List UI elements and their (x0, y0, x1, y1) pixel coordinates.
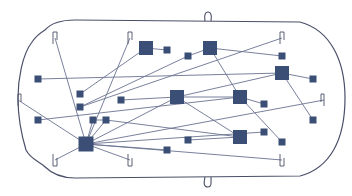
node-C (275, 66, 289, 80)
node-s17 (164, 147, 171, 154)
node-s3 (35, 76, 42, 83)
connection-line (106, 120, 240, 137)
connection-line (86, 144, 167, 150)
node-D (170, 90, 184, 104)
node-s14 (261, 129, 268, 136)
node-s16 (185, 137, 192, 144)
mirror-top (205, 12, 212, 21)
node-F (79, 137, 94, 152)
wire-line (86, 38, 130, 144)
node-s4 (310, 76, 317, 83)
connection-line (210, 48, 240, 97)
connection-line (121, 97, 177, 100)
node-G (233, 130, 247, 144)
node-s9 (103, 117, 110, 124)
vehicle-network-diagram (0, 0, 352, 196)
connection-line (282, 73, 313, 120)
node-s10 (35, 117, 42, 124)
mirror-bottom (204, 177, 211, 187)
diagram-canvas (0, 0, 352, 196)
node-A (139, 41, 153, 55)
connection-line (210, 48, 282, 56)
node-E (233, 90, 247, 104)
node-s1 (164, 47, 171, 54)
node-s2 (185, 53, 192, 60)
node-s12 (279, 53, 286, 60)
node-layer (35, 41, 317, 154)
node-B (203, 41, 217, 55)
connection-line (177, 73, 282, 97)
wire-line (18, 100, 86, 144)
node-s6 (77, 104, 84, 111)
node-s15 (279, 139, 286, 146)
node-s5 (77, 91, 84, 98)
node-s13 (310, 117, 317, 124)
clip-side-left (18, 94, 21, 106)
node-s11 (261, 101, 268, 108)
connection-line (80, 48, 146, 94)
node-s7 (118, 97, 125, 104)
connection-line (188, 137, 240, 140)
node-s8 (90, 117, 97, 124)
connection-line (86, 97, 177, 144)
connection-line (38, 73, 282, 79)
